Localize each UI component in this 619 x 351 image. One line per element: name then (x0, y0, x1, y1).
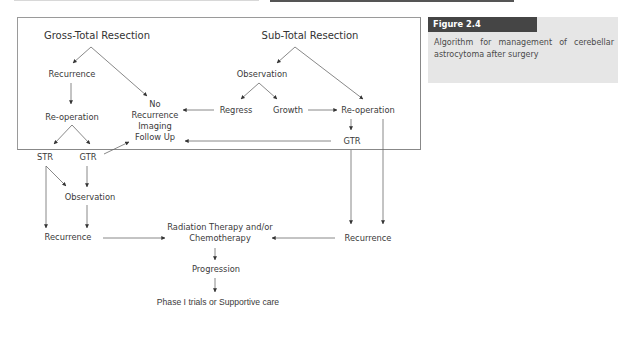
node-observation-right: Observation (237, 69, 288, 80)
figure-caption: Algorithm for management of cerebellar a… (434, 37, 614, 60)
node-progression: Progression (192, 264, 240, 275)
node-recurrence-left: Recurrence (49, 69, 96, 80)
node-phase-i-trials-supportive-care: Phase I trials or Supportive care (157, 297, 279, 308)
node-recurrence-right: Recurrence (345, 233, 392, 244)
node-radiation-chemotherapy: Radiation Therapy and/or Chemotherapy (165, 222, 275, 244)
node-no-recurrence-imaging-follow-up: No Recurrence Imaging Follow Up (125, 99, 185, 143)
node-gtr-left: GTR (80, 152, 97, 163)
node-gtr-right: GTR (344, 136, 361, 147)
node-reoperation-left: Re-operation (45, 112, 98, 123)
node-str-left: STR (37, 152, 53, 163)
node-observation-left: Observation (65, 192, 116, 203)
node-regress: Regress (220, 105, 253, 116)
node-gross-total-resection: Gross-Total Resection (44, 30, 150, 41)
figure-label: Figure 2.4 (433, 18, 481, 31)
node-sub-total-resection: Sub-Total Resection (262, 30, 359, 41)
node-growth: Growth (273, 105, 303, 116)
node-reoperation-right: Re-operation (341, 105, 394, 116)
node-recurrence-left-bottom: Recurrence (45, 232, 92, 243)
